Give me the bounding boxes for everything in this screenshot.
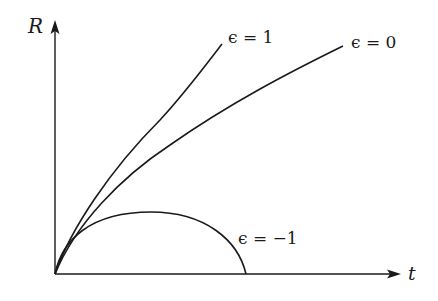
curve-eps-positive: [55, 44, 222, 274]
friedmann-diagram: R t ϵ = 1 ϵ = 0 ϵ = −1: [0, 0, 438, 301]
curve-eps-zero: [55, 46, 343, 274]
x-axis-label: t: [408, 262, 416, 284]
label-eps-zero: ϵ = 0: [351, 32, 396, 52]
label-eps-negative: ϵ = −1: [238, 228, 298, 248]
label-eps-positive: ϵ = 1: [228, 27, 273, 47]
curve-eps-negative: [55, 212, 246, 274]
y-axis-label: R: [27, 14, 43, 38]
